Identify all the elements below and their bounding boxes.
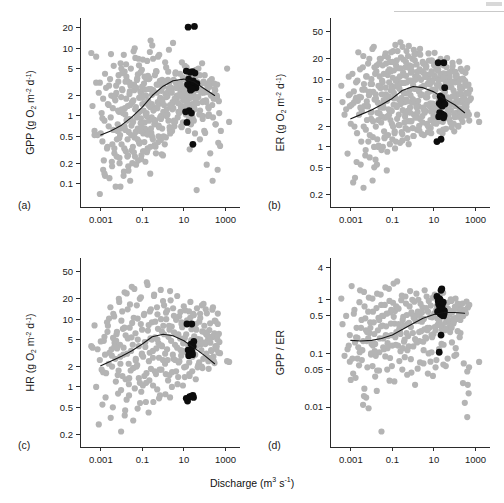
data-point xyxy=(378,291,384,297)
data-point xyxy=(115,79,121,85)
data-point xyxy=(367,132,373,138)
data-point xyxy=(111,145,117,151)
data-point xyxy=(432,87,438,93)
data-point xyxy=(370,118,376,124)
data-point xyxy=(145,327,151,333)
y-tick-label: 5 xyxy=(68,334,73,345)
y-tick-label: 1 xyxy=(318,294,323,305)
data-point xyxy=(392,42,398,48)
data-point xyxy=(411,52,417,58)
data-point xyxy=(429,70,435,76)
panel-tag: (a) xyxy=(18,199,31,211)
data-point xyxy=(418,92,424,98)
data-point xyxy=(165,69,171,75)
data-point xyxy=(417,46,423,52)
data-point-outside xyxy=(226,119,232,125)
data-point xyxy=(154,304,160,310)
data-point xyxy=(130,417,136,423)
panel-a-data-layer xyxy=(88,23,230,197)
data-point xyxy=(144,131,150,137)
data-point xyxy=(386,378,392,384)
data-point xyxy=(466,117,472,123)
y-tick-label: 0.5 xyxy=(310,162,323,173)
data-point xyxy=(425,50,431,56)
x-tick-label: 0.001 xyxy=(339,454,363,465)
data-point xyxy=(185,128,191,134)
data-point xyxy=(438,332,445,339)
data-point xyxy=(185,24,192,31)
data-point xyxy=(354,78,360,84)
data-point xyxy=(182,374,188,380)
data-point xyxy=(120,326,126,332)
x-tick-label: 1000 xyxy=(215,214,236,225)
data-point xyxy=(118,318,124,324)
data-point xyxy=(214,343,220,349)
data-point xyxy=(409,297,415,303)
data-point xyxy=(426,58,432,64)
data-point xyxy=(131,286,137,292)
data-point xyxy=(364,117,370,123)
data-point xyxy=(147,171,153,177)
data-point xyxy=(158,342,164,348)
data-point xyxy=(371,144,377,150)
data-point xyxy=(120,173,126,179)
data-point xyxy=(154,386,160,392)
data-point xyxy=(371,64,377,70)
data-point xyxy=(113,338,119,344)
y-tick-label: 1 xyxy=(68,110,73,121)
data-point xyxy=(361,393,367,399)
data-point xyxy=(464,65,470,71)
data-point xyxy=(177,309,183,315)
data-point xyxy=(369,296,375,302)
data-point xyxy=(422,74,428,80)
data-point xyxy=(410,133,416,139)
gray-point-series xyxy=(88,279,230,434)
data-point xyxy=(413,104,419,110)
data-point xyxy=(93,54,99,60)
data-point xyxy=(215,167,221,173)
data-point xyxy=(408,118,414,124)
data-point xyxy=(183,363,189,369)
y-tick-label: 0.5 xyxy=(310,310,323,321)
data-point xyxy=(419,113,425,119)
data-point-outside xyxy=(476,119,482,125)
data-point xyxy=(133,104,139,110)
y-tick-label: 10 xyxy=(312,74,323,85)
data-point xyxy=(442,101,449,108)
data-point xyxy=(356,299,362,305)
panel-tag: (c) xyxy=(18,439,30,451)
panel-c-hr: 0.20.51251020500.0010.1101000HR (g O2 m-… xyxy=(0,240,254,503)
data-point xyxy=(417,359,423,365)
y-tick-label: 0.2 xyxy=(60,429,73,440)
data-point xyxy=(96,421,102,427)
data-point xyxy=(393,102,399,108)
data-point xyxy=(427,359,433,365)
data-point xyxy=(132,55,138,61)
x-tick-label: 0.001 xyxy=(339,214,363,225)
data-point xyxy=(404,98,410,104)
data-point xyxy=(211,81,217,87)
data-point xyxy=(199,302,205,308)
data-point xyxy=(391,314,397,320)
data-point xyxy=(101,157,107,163)
data-point xyxy=(406,141,412,147)
y-axis-title: GPP / ER xyxy=(274,329,286,375)
data-point xyxy=(357,105,363,111)
data-point xyxy=(403,73,409,79)
panel-d-data-layer xyxy=(338,278,472,434)
data-point xyxy=(355,49,361,55)
data-point xyxy=(109,353,115,359)
data-point xyxy=(119,308,125,314)
data-point xyxy=(457,86,463,92)
y-tick-label: 0.5 xyxy=(60,402,73,413)
y-tick-label: 0.1 xyxy=(60,178,73,189)
data-point xyxy=(163,371,169,377)
y-axis-title: GPP (g O2 m-2 d-1) xyxy=(24,70,37,155)
data-point xyxy=(465,90,471,96)
data-point xyxy=(387,141,393,147)
data-point xyxy=(170,356,176,362)
data-point xyxy=(346,74,352,80)
data-point xyxy=(445,356,451,362)
data-point xyxy=(374,388,380,394)
data-point xyxy=(450,63,456,69)
